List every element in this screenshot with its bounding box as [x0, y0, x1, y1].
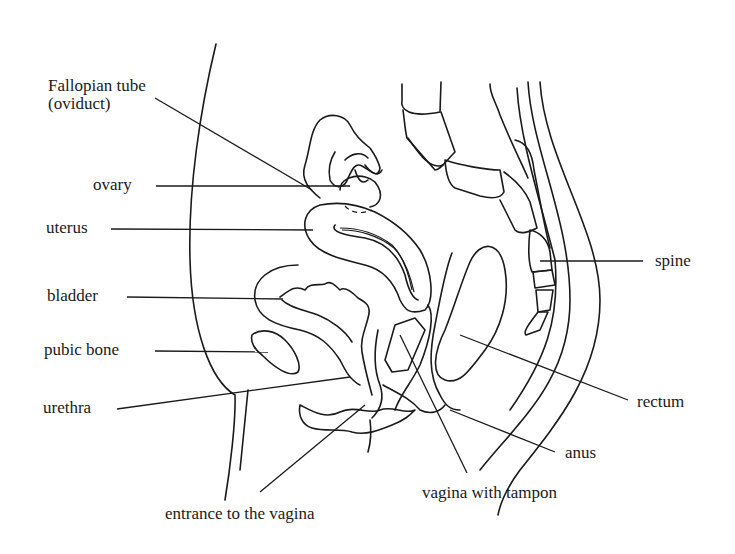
label-urethra: urethra	[43, 399, 91, 417]
label-oviduct: (oviduct)	[48, 95, 110, 113]
labia	[300, 405, 416, 433]
spine-vertebrae	[402, 82, 555, 335]
rectum-outer	[431, 253, 460, 410]
leader-pubic-bone	[155, 351, 268, 352]
label-bladder: bladder	[47, 287, 98, 305]
leader-uterus	[111, 229, 313, 230]
leader-entrance-to-vagina	[260, 405, 365, 492]
leader-urethra	[117, 377, 350, 409]
label-pubic-bone: pubic bone	[44, 341, 119, 359]
leader-anus	[450, 410, 555, 452]
body-contour-front	[190, 44, 235, 500]
label-uterus: uterus	[46, 219, 88, 237]
bladder-outer	[255, 265, 360, 385]
label-entrance-to-vagina: entrance to the vagina	[165, 505, 315, 523]
bladder-neck	[282, 300, 352, 342]
leader-vagina-with-tampon	[400, 335, 467, 473]
leader-bladder	[127, 297, 283, 299]
bladder-wall	[280, 283, 372, 395]
label-ovary: ovary	[93, 176, 132, 194]
label-anus: anus	[565, 444, 596, 462]
rectum	[436, 246, 507, 381]
vagina-wall-front	[372, 330, 382, 418]
label-vagina-with-tampon: vagina with tampon	[422, 484, 557, 502]
label-rectum: rectum	[637, 393, 684, 411]
label-fallopian-tube: Fallopian tube	[48, 77, 146, 95]
leader-fallopian-tube	[155, 98, 312, 190]
anatomy-diagram: Fallopian tube (oviduct) ovary uterus bl…	[0, 0, 735, 554]
label-spine: spine	[655, 252, 691, 270]
